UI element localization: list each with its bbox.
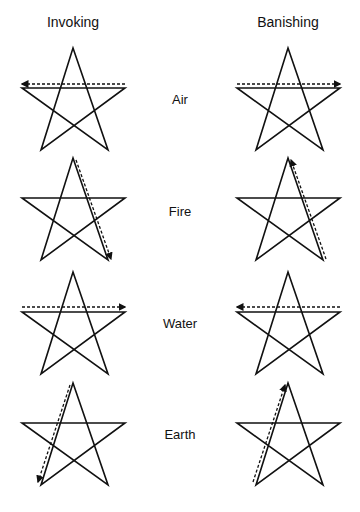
star-air-banishing	[237, 48, 340, 150]
trace-arrow	[291, 160, 326, 259]
star-water-banishing	[237, 272, 340, 374]
trace-arrow	[76, 160, 111, 259]
star-fire-invoking	[22, 158, 125, 260]
star-air-invoking	[22, 48, 125, 150]
star-water-invoking	[22, 272, 125, 374]
star-earth-banishing	[237, 383, 340, 485]
star-fire-banishing	[237, 158, 340, 260]
pentagram-diagram	[0, 0, 360, 512]
star-earth-invoking	[22, 383, 125, 485]
